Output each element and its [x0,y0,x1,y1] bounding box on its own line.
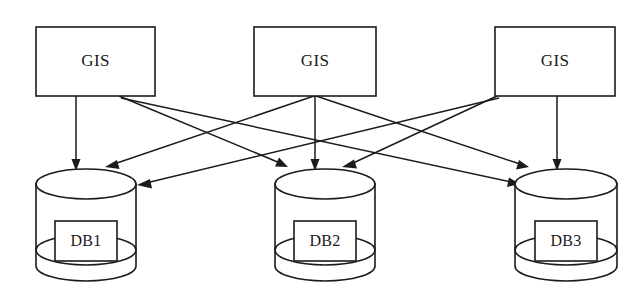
gis-box-1-label: GIS [81,51,109,70]
arrow-head-icon [342,160,357,169]
db-node-layer: DB1 DB2 DB3 [36,169,617,281]
db-node-2[interactable]: DB2 [275,169,375,281]
db-node-1[interactable]: DB1 [36,169,136,281]
edge-gis3-to-db2[interactable] [342,96,497,169]
gis-node-layer: GIS GIS GIS [36,27,615,96]
gis-box-2-label: GIS [301,51,329,70]
db-node-3-label: DB3 [551,232,582,249]
gis-box-3-label: GIS [541,51,569,70]
arrow-head-icon [516,160,529,170]
edge-gis3-to-db3[interactable] [553,96,562,171]
arrow-head-icon [105,160,120,169]
arrow-head-icon [137,179,152,189]
diagram-canvas: GIS GIS GIS DB1 [0,0,641,292]
diagram-svg: GIS GIS GIS DB1 [0,0,641,292]
db-cylinder-3-top [515,169,617,199]
edge-gis2-to-db2[interactable] [311,96,320,171]
gis-node-2[interactable]: GIS [254,27,376,96]
db-cylinder-1-top [36,169,136,199]
gis-node-1[interactable]: GIS [36,27,155,96]
db-node-2-label: DB2 [310,232,341,249]
db-node-3[interactable]: DB3 [515,169,617,281]
db-node-1-label: DB1 [71,232,102,249]
gis-node-3[interactable]: GIS [495,27,615,96]
db-cylinder-2-top [275,169,375,199]
arrow-head-icon [275,158,288,168]
edge-gis1-to-db2[interactable] [119,96,288,167]
edge-gis2-to-db3[interactable] [316,96,529,170]
edge-gis1-to-db1[interactable] [72,96,81,171]
